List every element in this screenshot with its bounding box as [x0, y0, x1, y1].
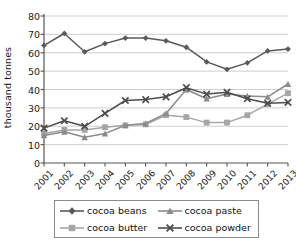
data-point-marker	[143, 35, 149, 41]
legend-marker-x-icon	[157, 222, 183, 234]
line-chart-figure: thousand tonnes 01020304050607080 200120…	[0, 0, 296, 244]
legend-label: cocoa powder	[185, 223, 251, 233]
data-point-marker	[183, 114, 189, 120]
legend-item-cocoa-butter[interactable]: cocoa butter	[59, 222, 157, 234]
legend-label: cocoa paste	[185, 206, 242, 216]
data-point-marker	[285, 46, 291, 52]
data-point-marker	[285, 81, 291, 87]
legend-item-cocoa-paste[interactable]: cocoa paste	[157, 205, 255, 217]
data-point-marker	[102, 41, 108, 47]
data-point-marker	[102, 124, 108, 130]
data-point-marker	[122, 35, 128, 41]
legend-item-cocoa-powder[interactable]: cocoa powder	[157, 222, 255, 234]
data-point-marker	[224, 120, 230, 126]
data-point-marker	[285, 90, 291, 96]
legend-label: cocoa beans	[87, 206, 147, 216]
legend-marker-triangle-icon	[157, 205, 183, 217]
legend-item-cocoa-beans[interactable]: cocoa beans	[59, 205, 157, 217]
series-cocoa-beans	[41, 31, 291, 73]
legend-marker-square-icon	[59, 222, 85, 234]
data-point-marker	[244, 112, 250, 118]
chart-legend: cocoa beans cocoa paste cocoa butter coc…	[54, 200, 259, 238]
legend-label: cocoa butter	[87, 223, 147, 233]
data-point-marker	[204, 120, 210, 126]
data-point-marker	[163, 38, 169, 44]
legend-marker-diamond-icon	[59, 205, 85, 217]
